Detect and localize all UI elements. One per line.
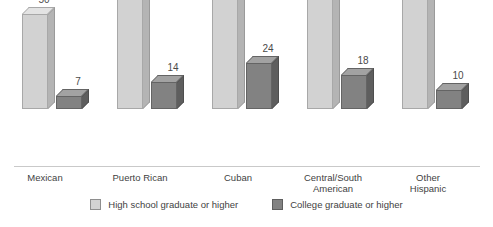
bar-side-face bbox=[143, 0, 150, 109]
value-label: 24 bbox=[248, 43, 288, 54]
bar-front-face bbox=[212, 0, 238, 109]
bar-front-face bbox=[151, 82, 177, 109]
bar-box bbox=[436, 90, 462, 109]
bar-front-face bbox=[436, 90, 462, 109]
value-label: 50 bbox=[24, 0, 64, 5]
legend-swatch-icon-high-school bbox=[90, 199, 101, 210]
category-label-line: Other bbox=[368, 172, 488, 183]
bar-front-face bbox=[341, 75, 367, 109]
bar-group-other-hispanic: 74 10 bbox=[398, 0, 484, 109]
legend-swatch-icon-college bbox=[272, 199, 283, 210]
bar-side-face bbox=[428, 0, 435, 109]
bar-chart-plot-area: 50 7 Mexican 63 bbox=[0, 0, 493, 170]
bar-box bbox=[307, 0, 333, 109]
value-label: 18 bbox=[343, 55, 383, 66]
bar-box bbox=[212, 0, 238, 109]
value-label: 14 bbox=[153, 62, 193, 73]
bar-group-central-south-american: 65 18 bbox=[303, 0, 389, 109]
bar-box bbox=[22, 14, 48, 109]
bar-side-face bbox=[272, 56, 279, 109]
value-label: 7 bbox=[58, 76, 98, 87]
legend-item-high-school[interactable]: High school graduate or higher bbox=[90, 199, 238, 210]
chart-baseline bbox=[14, 166, 480, 167]
bar-side-face bbox=[238, 0, 245, 109]
bar-side-face bbox=[333, 0, 340, 109]
bar-side-face bbox=[48, 7, 55, 109]
chart-legend: High school graduate or higher College g… bbox=[0, 199, 493, 210]
value-label: 10 bbox=[438, 70, 478, 81]
bar-box bbox=[341, 75, 367, 109]
bar-group-mexican: 50 7 bbox=[18, 0, 104, 109]
bar-front-face bbox=[307, 0, 333, 109]
bar-group-puerto-rican: 63 14 bbox=[113, 0, 199, 109]
bar-side-face bbox=[177, 75, 184, 109]
bar-front-face bbox=[56, 96, 82, 109]
category-label-other-hispanic: Other Hispanic bbox=[368, 172, 488, 194]
bar-front-face bbox=[246, 63, 272, 109]
bar-front-face bbox=[402, 0, 428, 109]
bar-box bbox=[117, 0, 143, 109]
bar-box bbox=[402, 0, 428, 109]
bar-front-face bbox=[117, 0, 143, 109]
category-label-line: Hispanic bbox=[368, 183, 488, 194]
legend-item-college[interactable]: College graduate or higher bbox=[272, 199, 403, 210]
bar-group-cuban: 75 24 bbox=[208, 0, 294, 109]
bar-box bbox=[56, 96, 82, 109]
bar-box bbox=[246, 63, 272, 109]
bar-box bbox=[151, 82, 177, 109]
bar-front-face bbox=[22, 14, 48, 109]
legend-label: College graduate or higher bbox=[290, 199, 403, 210]
bar-side-face bbox=[367, 68, 374, 109]
legend-label: High school graduate or higher bbox=[108, 199, 238, 210]
